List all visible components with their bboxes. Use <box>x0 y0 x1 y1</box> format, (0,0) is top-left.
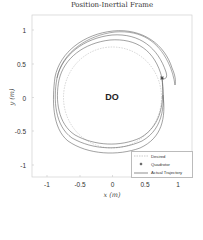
y-tick: 1 <box>4 27 26 34</box>
quadrotor-marker <box>160 76 164 80</box>
legend: Desired Quadrotor Actual Trajectory <box>131 151 193 178</box>
solid-line-icon <box>134 170 148 176</box>
x-axis-label: x (m) <box>104 191 121 199</box>
legend-item-quadrotor: Quadrotor <box>132 161 192 169</box>
y-tick: -0.5 <box>4 128 26 135</box>
legend-label: Desired <box>151 154 165 159</box>
y-tick: 0.5 <box>4 61 26 68</box>
x-tick: -1 <box>44 181 50 188</box>
legend-label: Actual Trajectory <box>151 170 182 175</box>
x-tick: 0 <box>111 181 115 188</box>
star-marker-icon <box>134 161 148 167</box>
y-tick: -1 <box>4 162 26 169</box>
x-tick: -0.5 <box>74 181 85 188</box>
y-axis-label: y (m) <box>8 89 16 106</box>
legend-item-desired: Desired <box>132 153 192 161</box>
do-annotation: DO <box>105 92 119 102</box>
dashed-line-icon <box>134 153 148 159</box>
x-tick: 0.5 <box>140 181 149 188</box>
x-tick: 1 <box>176 181 180 188</box>
legend-label: Quadrotor <box>151 162 170 167</box>
legend-item-actual: Actual Trajectory <box>132 169 192 177</box>
